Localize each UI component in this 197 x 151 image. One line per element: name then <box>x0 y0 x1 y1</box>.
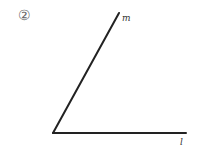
label-l: l <box>180 137 183 147</box>
line-m <box>53 13 119 133</box>
angle-diagram: m l <box>0 0 197 151</box>
label-m: m <box>122 13 131 23</box>
